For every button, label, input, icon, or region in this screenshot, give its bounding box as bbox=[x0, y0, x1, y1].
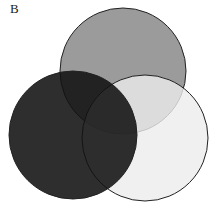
venn-diagram bbox=[0, 0, 214, 212]
left-circle bbox=[9, 71, 137, 199]
